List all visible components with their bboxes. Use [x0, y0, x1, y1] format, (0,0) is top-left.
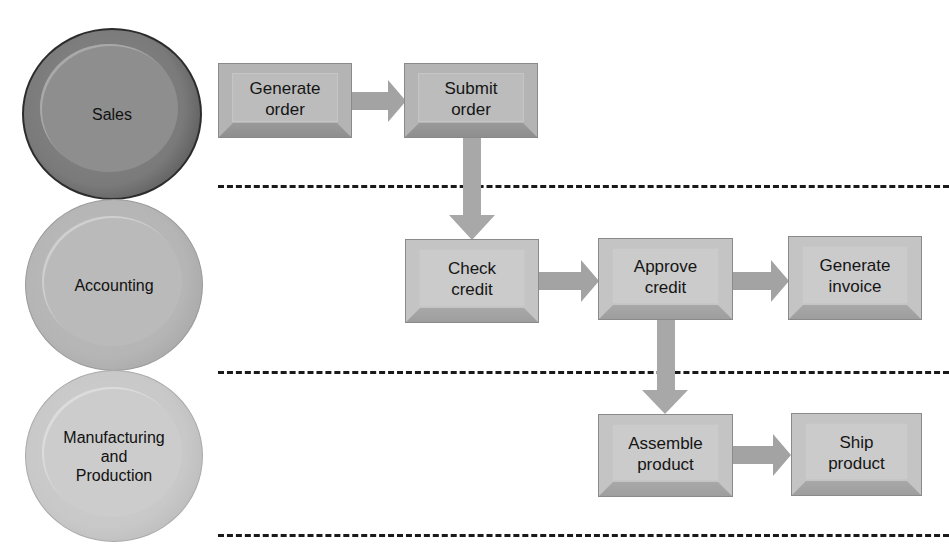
lane-label-sales: Sales	[92, 105, 132, 124]
arrow-right-icon	[539, 260, 599, 302]
arrow-right-icon	[733, 260, 789, 302]
step-generate-order: Generate order	[218, 63, 352, 138]
arrow-right-icon	[733, 434, 791, 476]
step-approve-credit: Approve credit	[598, 238, 733, 320]
lane-accounting: Accounting	[25, 199, 203, 371]
step-ship-product: Ship product	[791, 413, 922, 496]
arrow-right-icon	[352, 80, 406, 122]
step-label: Assemble product	[628, 433, 703, 475]
step-assemble-product: Assemble product	[598, 414, 733, 497]
lane-divider-2	[218, 371, 949, 374]
arrow-down-icon	[449, 137, 495, 240]
arrow-down-icon	[642, 320, 688, 414]
step-submit-order: Submit order	[404, 63, 538, 138]
step-check-credit: Check credit	[405, 239, 539, 323]
step-label: Ship product	[828, 432, 885, 474]
lane-divider-3	[218, 534, 949, 537]
step-generate-invoice: Generate invoice	[788, 236, 922, 320]
step-label: Generate order	[250, 78, 321, 120]
step-label: Submit order	[445, 78, 498, 120]
lane-label-accounting: Accounting	[74, 276, 153, 295]
lane-divider-1	[218, 185, 949, 188]
lane-manufacturing: Manufacturing and Production	[25, 370, 203, 542]
step-label: Generate invoice	[820, 255, 891, 297]
step-label: Approve credit	[634, 256, 697, 298]
lane-sales: Sales	[22, 28, 202, 200]
lane-label-manufacturing: Manufacturing and Production	[63, 428, 164, 485]
step-label: Check credit	[448, 258, 496, 300]
